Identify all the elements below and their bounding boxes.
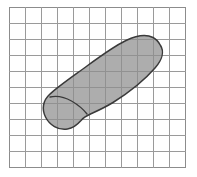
grid-area: [9, 7, 186, 168]
figure-root: [0, 0, 197, 177]
grid-svg: [9, 7, 186, 168]
